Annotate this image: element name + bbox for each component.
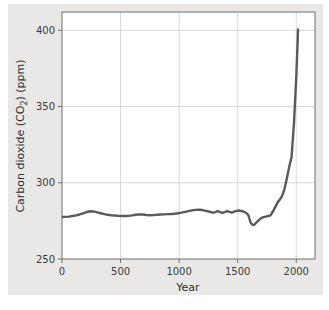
figure-container: 250300350400 0500100015002000 Year Carbo…	[0, 0, 329, 310]
x-tick-label: 0	[59, 266, 65, 277]
x-tick-label: 500	[111, 266, 130, 277]
y-axis-title-before: Carbon dioxide (CO	[14, 105, 27, 212]
y-tick-label: 250	[36, 254, 55, 265]
y-tick-label: 300	[36, 177, 55, 188]
x-axis-tick-labels: 0500100015002000	[59, 266, 309, 277]
x-tick-label: 1500	[225, 266, 250, 277]
y-axis-ticks	[58, 30, 62, 259]
co2-line-chart: 250300350400 0500100015002000 Year Carbo…	[0, 0, 329, 310]
x-axis-title: Year	[175, 281, 200, 294]
x-axis-ticks	[62, 259, 296, 263]
x-tick-label: 1000	[166, 266, 191, 277]
y-axis-tick-labels: 250300350400	[36, 25, 55, 265]
plot-area-background	[62, 12, 315, 259]
y-axis-title-after: ) (ppm)	[14, 59, 27, 100]
y-tick-label: 400	[36, 25, 55, 36]
y-tick-label: 350	[36, 101, 55, 112]
x-tick-label: 2000	[284, 266, 309, 277]
y-axis-title: Carbon dioxide (CO2) (ppm)	[14, 59, 29, 212]
